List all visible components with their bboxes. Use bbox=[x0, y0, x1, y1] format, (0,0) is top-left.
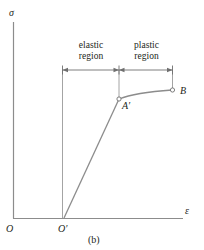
y-axis-label: σ bbox=[9, 8, 14, 18]
plastic-curve-segment bbox=[119, 90, 172, 99]
point-a-prime-label: A′ bbox=[122, 101, 130, 111]
stress-strain-figure: σ ε O O′ A′ B elastic region plastic reg… bbox=[0, 0, 204, 250]
point-b-label: B bbox=[180, 86, 186, 96]
point-a-prime-marker bbox=[117, 97, 121, 101]
elastic-region-label-line2: region bbox=[62, 51, 120, 62]
elastic-region-dimension-line bbox=[63, 66, 120, 75]
elastic-region-label-line1: elastic bbox=[62, 40, 120, 51]
offset-origin-label: O′ bbox=[58, 224, 67, 234]
plastic-region-label-line1: plastic bbox=[119, 40, 174, 51]
origin-label: O bbox=[6, 224, 13, 234]
plastic-region-dimension-line bbox=[119, 66, 173, 75]
point-b-marker bbox=[170, 88, 174, 92]
x-axis-label: ε bbox=[185, 206, 189, 216]
plastic-region-label-line2: region bbox=[119, 51, 174, 62]
elastic-region-label: elastic region bbox=[62, 40, 120, 62]
figure-canvas bbox=[0, 0, 204, 250]
elastic-curve-segment bbox=[64, 99, 119, 218]
plastic-region-label: plastic region bbox=[119, 40, 174, 62]
figure-caption: (b) bbox=[88, 235, 100, 245]
